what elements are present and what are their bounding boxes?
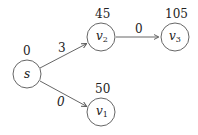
graph-diagram: 3 0 0 s 0 v2 45 v3 105 v1 50 bbox=[0, 0, 198, 135]
node-value: 45 bbox=[95, 7, 110, 21]
node-subscript: 3 bbox=[176, 35, 181, 44]
node-value: 50 bbox=[95, 82, 110, 96]
node-subscript: 2 bbox=[103, 35, 108, 44]
edge-s-v2: 3 bbox=[40, 41, 86, 68]
node-s: s 0 bbox=[13, 44, 41, 88]
edge-weight: 0 bbox=[57, 95, 65, 109]
node-v1: v1 50 bbox=[87, 82, 115, 126]
edge-weight: 0 bbox=[135, 22, 143, 36]
node-value: 105 bbox=[165, 7, 188, 21]
node-label: s bbox=[24, 67, 30, 81]
node-subscript: 1 bbox=[103, 110, 108, 119]
node-v3: v3 105 bbox=[161, 7, 189, 51]
node-value: 0 bbox=[23, 44, 31, 58]
edge-v2-v3: 0 bbox=[116, 22, 158, 37]
edge-s-v1: 0 bbox=[40, 81, 86, 109]
edge-weight: 3 bbox=[58, 41, 66, 55]
node-v2: v2 45 bbox=[87, 7, 115, 51]
